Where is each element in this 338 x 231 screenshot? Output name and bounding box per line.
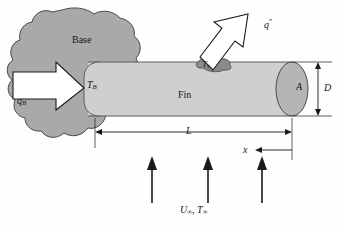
axial-coordinate-arrow — [255, 147, 292, 153]
base-heat-rate-label: qB — [17, 96, 26, 107]
freestream-flow-arrows — [147, 156, 267, 203]
fin-tip-cross-section — [276, 62, 308, 116]
cross-section-area-label: A — [296, 82, 302, 92]
surface-temperature-label: Ts — [202, 60, 209, 69]
fin-label: Fin — [178, 90, 191, 100]
length-label: L — [186, 126, 192, 136]
base-temperature-label: TB — [87, 80, 97, 91]
diagram-canvas — [0, 0, 338, 231]
axial-coordinate-label: x — [243, 145, 247, 155]
diameter-label: D — [324, 83, 331, 93]
qpp-superscript: ″ — [269, 18, 272, 27]
dimension-L — [95, 118, 292, 160]
freestream-condition-label: U∞, T∞ — [180, 205, 208, 216]
base-label: Base — [72, 35, 91, 45]
tb-subscript: B — [93, 83, 97, 90]
freestream-temperature-subscript: ∞ — [203, 208, 208, 215]
qb-subscript: B — [22, 99, 26, 106]
ts-subscript: s — [207, 63, 209, 69]
surface-heat-flux-label: q″ — [264, 19, 272, 30]
fin-heat-transfer-diagram: Base Fin TB Ts qB q″ A D L x U∞, T∞ — [0, 0, 338, 231]
